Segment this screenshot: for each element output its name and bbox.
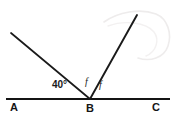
point-label-c: C (152, 102, 160, 113)
scan-artifact-group (104, 11, 170, 59)
point-label-a: A (10, 102, 18, 113)
ray-b-to-upper-right (90, 15, 137, 99)
geometry-diagram: A B C 40° f f (0, 0, 177, 117)
scan-smudge-artifact (104, 11, 170, 59)
ray-b-to-upper-left (11, 33, 90, 99)
angle-label-40-degrees: 40° (52, 80, 67, 90)
diagram-canvas (0, 0, 177, 117)
angle-label-f-left: f (85, 77, 88, 87)
point-label-b: B (86, 103, 94, 114)
scan-smudge-artifact-secondary (108, 23, 157, 56)
angle-label-f-right: f (99, 80, 102, 90)
